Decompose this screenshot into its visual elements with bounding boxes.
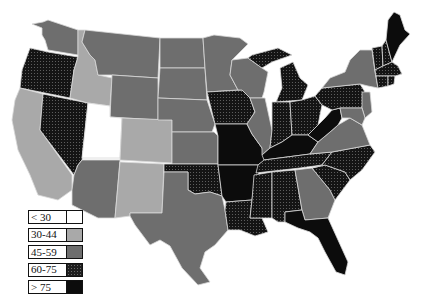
legend-item-gt75: > 75	[28, 280, 83, 294]
legend-swatch	[67, 229, 82, 241]
state-MI-lower	[276, 62, 308, 102]
state-ME	[386, 12, 410, 62]
legend-swatch	[67, 281, 82, 293]
legend-item-45-59: 45-59	[28, 245, 83, 259]
state-NY	[322, 50, 378, 88]
state-RI	[388, 76, 395, 86]
legend-swatch	[67, 211, 82, 223]
legend-label: 30-44	[29, 229, 67, 241]
state-NM	[115, 162, 164, 218]
legend-label: > 75	[29, 281, 67, 293]
legend-label: 45-59	[29, 246, 67, 258]
state-MS	[250, 172, 272, 218]
state-CT	[376, 76, 388, 88]
map-legend: < 30 30-44 45-59 60-75 > 75	[28, 210, 84, 295]
state-KS	[172, 132, 218, 164]
state-CO	[120, 118, 172, 163]
state-WY	[110, 75, 158, 120]
legend-label: 60-75	[29, 264, 67, 276]
legend-item-lt30: < 30	[28, 210, 83, 224]
legend-swatch	[67, 264, 82, 276]
state-SD	[158, 68, 207, 100]
state-ND	[160, 38, 205, 68]
state-FL	[285, 210, 348, 275]
legend-item-30-44: 30-44	[28, 228, 83, 242]
legend-swatch	[67, 246, 82, 258]
legend-item-60-75: 60-75	[28, 263, 83, 277]
legend-label: < 30	[29, 211, 67, 223]
